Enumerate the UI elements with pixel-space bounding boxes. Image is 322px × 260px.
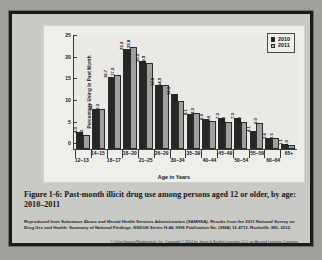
bar-2011: 6.2 bbox=[225, 122, 232, 149]
bar-2011: 17.3 bbox=[114, 75, 121, 149]
chart-legend: 2010 2011 bbox=[267, 33, 296, 53]
x-axis-label: 65+ bbox=[285, 150, 293, 156]
bar-value-label: 4.1 bbox=[246, 127, 251, 133]
bar-value-label: 6.4 bbox=[205, 117, 210, 123]
legend-swatch-2010-icon bbox=[271, 37, 276, 42]
chart-panel: Percentage Using in Past Month 051015202… bbox=[43, 25, 305, 183]
figure-caption: Figure 1-6: Past-month illicit drug use … bbox=[24, 190, 298, 211]
bar-value-label: 19.9 bbox=[141, 56, 146, 64]
bar-2011: 3.3 bbox=[83, 135, 90, 149]
x-axis-label: 21–25 bbox=[139, 157, 153, 163]
figure-source-note: Reproduced from Substance Abuse and Ment… bbox=[24, 219, 298, 231]
y-axis-tick-label: 25 bbox=[65, 32, 74, 38]
y-axis-tick-label: 5 bbox=[68, 119, 74, 125]
copyright-line-2: www.jblearning.com bbox=[110, 245, 298, 246]
bar-2010: 8.1 bbox=[187, 114, 194, 149]
bar-value-label: 16.7 bbox=[103, 70, 108, 78]
bar-value-label: 4.0 bbox=[72, 127, 77, 133]
legend-item-2011: 2011 bbox=[271, 43, 291, 48]
bar-value-label: 14.9 bbox=[157, 78, 162, 86]
bar-value-label: 3.3 bbox=[79, 130, 84, 136]
bar-value-label: 1.1 bbox=[277, 139, 282, 145]
bar-group: 20.519.9 bbox=[138, 35, 154, 149]
x-axis-label: 14–15 bbox=[91, 150, 105, 156]
bar-2010: 16.7 bbox=[108, 77, 115, 149]
bar-value-label: 20.5 bbox=[134, 54, 139, 62]
bar-2011: 19.9 bbox=[146, 63, 153, 149]
x-axis-label: 50–54 bbox=[234, 157, 248, 163]
bar-value-label: 8.3 bbox=[189, 108, 194, 114]
bar-group: 23.323.8 bbox=[122, 35, 138, 149]
bar-2010: 23.3 bbox=[123, 49, 130, 149]
bar-2011: 6.4 bbox=[209, 121, 216, 149]
bar-value-label: 9.3 bbox=[88, 104, 93, 110]
bar-group: 4.03.3 bbox=[75, 35, 91, 149]
bar-value-label: 7.3 bbox=[214, 113, 219, 119]
bar-group: 4.16.0 bbox=[249, 35, 265, 149]
bar-2010: 4.1 bbox=[250, 131, 257, 149]
x-axis-labels: 12–1314–1516–1718–2021–2526–2930–3435–39… bbox=[74, 149, 297, 166]
bar-2011: 9.3 bbox=[99, 109, 106, 149]
bar-value-label: 14.8 bbox=[150, 78, 155, 86]
copyright-line-1: © Ocha Images/Shutterstock, Inc. Copyrig… bbox=[110, 240, 298, 245]
bar-2010: 9.3 bbox=[92, 109, 99, 149]
bar-value-label: 12.9 bbox=[166, 86, 171, 94]
bar-2010: 20.5 bbox=[139, 61, 146, 149]
legend-swatch-2011-icon bbox=[271, 44, 276, 49]
x-axis-label: 30–34 bbox=[171, 157, 185, 163]
bar-value-label: 6.0 bbox=[252, 118, 257, 124]
page-background: Percentage Using in Past Month 051015202… bbox=[0, 0, 322, 260]
bar-value-label: 2.5 bbox=[268, 133, 273, 139]
bar-2010: 2.6 bbox=[265, 138, 272, 149]
bar-value-label: 6.2 bbox=[237, 118, 242, 124]
bar-value-label: 6.9 bbox=[198, 115, 203, 121]
y-axis-tick-label: 20 bbox=[65, 54, 74, 60]
x-axis-label: 40–44 bbox=[202, 157, 216, 163]
bar-value-label: 17.3 bbox=[109, 67, 114, 75]
bar-value-label: 1.0 bbox=[284, 140, 289, 146]
bar-group: 8.18.3 bbox=[185, 35, 201, 149]
x-axis-label: 12–13 bbox=[75, 157, 89, 163]
bar-group: 7.36.2 bbox=[217, 35, 233, 149]
bar-value-label: 8.1 bbox=[183, 109, 188, 115]
x-axis-label: 35–39 bbox=[187, 150, 201, 156]
y-axis-tick-label: 10 bbox=[65, 97, 74, 103]
x-axis-title: Age in Years bbox=[44, 174, 304, 180]
bar-value-label: 23.8 bbox=[125, 39, 130, 47]
bar-value-label: 7.3 bbox=[230, 113, 235, 119]
bar-group: 16.717.3 bbox=[107, 35, 123, 149]
bar-2010: 6.9 bbox=[202, 119, 209, 149]
bar-series-container: 4.03.39.39.316.717.323.323.820.519.914.8… bbox=[75, 35, 296, 149]
bar-value-label: 2.6 bbox=[261, 133, 266, 139]
bar-group: 6.96.4 bbox=[201, 35, 217, 149]
figure-copyright: © Ocha Images/Shutterstock, Inc. Copyrig… bbox=[110, 240, 298, 246]
bar-2010: 14.8 bbox=[155, 85, 162, 149]
x-axis-label: 18–20 bbox=[123, 150, 137, 156]
figure-frame: Percentage Using in Past Month 051015202… bbox=[9, 11, 313, 246]
x-axis-label: 60–64 bbox=[266, 157, 280, 163]
y-axis-tick-label: 15 bbox=[65, 75, 74, 81]
x-axis-label: 55–59 bbox=[250, 150, 264, 156]
bar-value-label: 11.1 bbox=[173, 94, 178, 102]
legend-label-2011: 2011 bbox=[278, 43, 290, 48]
bar-value-label: 6.2 bbox=[221, 118, 226, 124]
plot-area: Percentage Using in Past Month 051015202… bbox=[73, 35, 297, 150]
y-axis-tick-label: 0 bbox=[68, 140, 74, 146]
x-axis-label: 45–49 bbox=[218, 150, 232, 156]
x-axis-label: 16–17 bbox=[107, 157, 121, 163]
x-axis-label: 26–29 bbox=[155, 150, 169, 156]
bar-value-label: 23.3 bbox=[118, 42, 123, 50]
bar-group: 12.911.1 bbox=[170, 35, 186, 149]
bar-group: 9.39.3 bbox=[91, 35, 107, 149]
bar-value-label: 9.3 bbox=[95, 104, 100, 110]
